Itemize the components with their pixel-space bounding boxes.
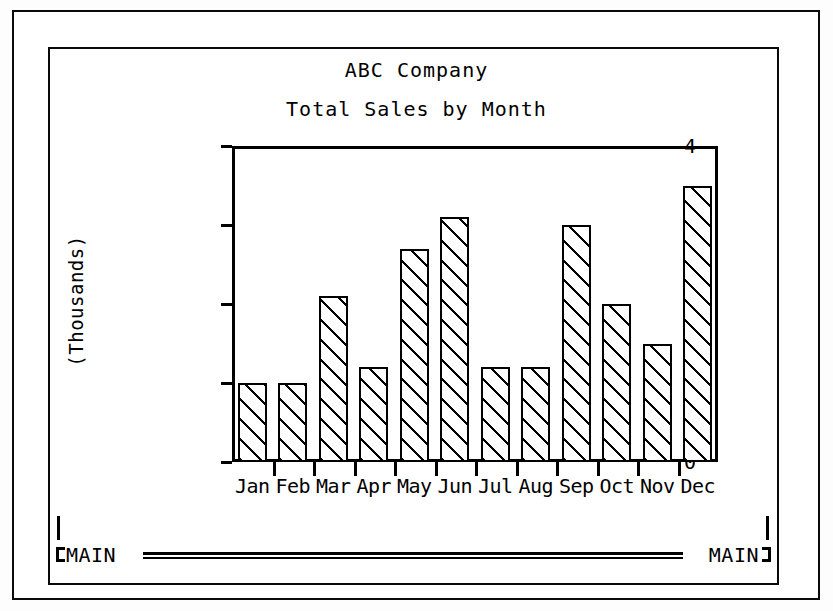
y-axis-tick xyxy=(221,303,232,306)
status-bar-left-stem xyxy=(57,516,60,540)
bar-jun xyxy=(440,217,469,462)
bar-apr xyxy=(359,367,388,462)
status-bar-right-stem xyxy=(766,516,769,540)
y-axis-tick xyxy=(221,224,232,227)
x-axis-label-may: May xyxy=(394,474,435,498)
status-bar-right-bracket-icon xyxy=(762,547,771,562)
bar-aug xyxy=(521,367,550,462)
bar-nov xyxy=(643,344,672,463)
bar-dec xyxy=(683,186,712,463)
chart-subtitle: Total Sales by Month xyxy=(0,97,833,121)
bar-feb xyxy=(278,383,307,462)
y-axis-label: (Thousands) xyxy=(65,235,87,366)
y-axis-label-container: (Thousands) xyxy=(62,188,90,414)
x-axis-label-nov: Nov xyxy=(637,474,678,498)
y-axis-tick xyxy=(221,382,232,385)
y-axis-tick-label: 4 xyxy=(684,136,696,156)
x-axis-label-sep: Sep xyxy=(556,474,597,498)
y-axis-tick xyxy=(221,461,232,464)
bar-oct xyxy=(602,304,631,462)
page-title: ABC Company xyxy=(0,58,833,82)
bar-jul xyxy=(481,367,510,462)
status-bar: MAIN MAIN xyxy=(48,538,779,578)
x-axis-label-oct: Oct xyxy=(597,474,638,498)
chart-plot-area: 01234 xyxy=(232,146,718,462)
x-axis-label-dec: Dec xyxy=(678,474,719,498)
x-axis-label-jul: Jul xyxy=(475,474,516,498)
x-axis-label-mar: Mar xyxy=(313,474,354,498)
y-axis-tick xyxy=(221,145,232,148)
screenshot-page: ABC Company Total Sales by Month (Thousa… xyxy=(0,0,833,611)
x-axis-label-jan: Jan xyxy=(232,474,273,498)
bar-may xyxy=(400,249,429,462)
x-axis-label-aug: Aug xyxy=(516,474,557,498)
status-bar-rule xyxy=(143,552,683,559)
x-axis-label-feb: Feb xyxy=(273,474,314,498)
x-axis-label-apr: Apr xyxy=(354,474,395,498)
status-label-right: MAIN xyxy=(709,544,759,566)
bar-mar xyxy=(319,296,348,462)
status-label-left: MAIN xyxy=(66,544,116,566)
status-bar-left-bracket-icon xyxy=(56,547,65,562)
x-axis-label-jun: Jun xyxy=(435,474,476,498)
bar-jan xyxy=(238,383,267,462)
bar-sep xyxy=(562,225,591,462)
x-axis-tick-labels: JanFebMarAprMayJunJulAugSepOctNovDec xyxy=(232,474,718,500)
